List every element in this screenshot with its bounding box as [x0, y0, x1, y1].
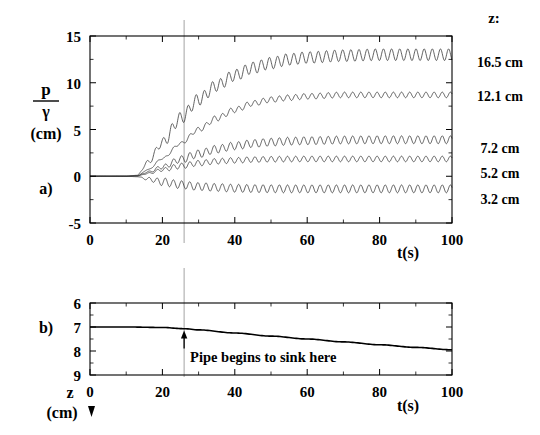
- ytick-label-a: -5: [69, 216, 82, 232]
- panel-a-tag: a): [39, 180, 52, 198]
- ytick-label-a: 15: [66, 29, 81, 45]
- xtick-label-b: 100: [441, 384, 464, 400]
- ytick-label-b: 7: [74, 320, 82, 336]
- xtick-label-a: 100: [441, 232, 464, 248]
- xtick-label-a: 60: [300, 232, 315, 248]
- panel-a-ylabel-unit: (cm): [30, 125, 61, 143]
- ytick-label-b: 9: [74, 368, 82, 384]
- xtick-label-b: 40: [227, 384, 242, 400]
- ytick-label-a: 10: [66, 76, 81, 92]
- xtick-label-b: 60: [300, 384, 315, 400]
- panel-a-ylabel-numerator: p: [41, 80, 50, 99]
- xtick-label-b: 80: [372, 384, 387, 400]
- xtick-label-b: 20: [155, 384, 170, 400]
- xtick-label-b: 0: [86, 384, 94, 400]
- ytick-label-b: 6: [74, 296, 82, 312]
- ytick-label-b: 8: [74, 344, 82, 360]
- ytick-label-a: 5: [74, 123, 82, 139]
- xtick-label-a: 80: [372, 232, 387, 248]
- figure-root: 151050-5 020406080100 p γ (cm) t(s) a) z…: [0, 0, 540, 435]
- xtick-label-a: 40: [227, 232, 242, 248]
- panel-b-xlabel: t(s): [397, 397, 419, 415]
- legend-item-5: 3.2 cm: [481, 192, 520, 207]
- xtick-label-a: 20: [155, 232, 170, 248]
- sink-annotation-text: Pipe begins to sink here: [190, 349, 337, 365]
- panel-b-ylabel-unit: (cm): [46, 404, 77, 422]
- xtick-label-a: 0: [86, 232, 94, 248]
- legend-item-2: 12.1 cm: [477, 89, 523, 104]
- panel-a-ylabel-denominator: γ: [41, 103, 50, 121]
- legend-item-3: 7.2 cm: [481, 141, 520, 156]
- legend-header: z:: [488, 10, 500, 26]
- legend-item-1: 16.5 cm: [477, 55, 523, 70]
- figure-background: [0, 0, 540, 435]
- panel-b-ylabel-sym: z: [66, 384, 73, 401]
- legend-item-4: 5.2 cm: [481, 166, 520, 181]
- panel-b-tag: b): [39, 319, 53, 337]
- ytick-label-a: 0: [74, 169, 82, 185]
- panel-a-xlabel: t(s): [397, 244, 419, 262]
